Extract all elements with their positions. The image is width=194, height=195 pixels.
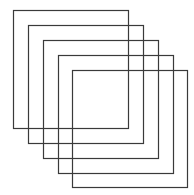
- overlapping-squares-diagram: [0, 0, 194, 195]
- square-outline-2: [29, 26, 144, 144]
- diagram-canvas: [0, 0, 194, 195]
- square-outline-1: [14, 11, 129, 129]
- square-outline-4: [59, 56, 174, 174]
- square-outline-3: [44, 41, 159, 159]
